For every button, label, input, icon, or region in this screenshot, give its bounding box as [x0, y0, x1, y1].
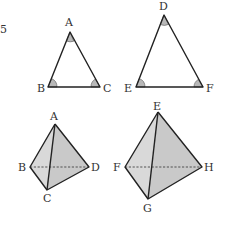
label-f: F [206, 82, 214, 95]
label-h-tetra: H [204, 161, 214, 174]
label-a: A [64, 16, 74, 29]
label-e-tetra: E [153, 100, 161, 113]
geometry-figure: 5 A B C D E F A B C D E F [0, 0, 226, 227]
label-c: C [103, 82, 111, 95]
label-d: D [159, 0, 168, 13]
triangle-abc-outline [48, 32, 100, 87]
label-f-tetra: F [113, 161, 121, 174]
label-b-tetra: B [18, 161, 26, 174]
triangle-def-outline [136, 15, 203, 87]
label-d-tetra: D [91, 161, 100, 174]
label-e: E [124, 82, 132, 95]
triangle-abc: A B C [37, 16, 111, 95]
label-c-tetra: C [43, 192, 51, 205]
label-a-tetra: A [49, 110, 59, 123]
tetrahedron-efgh: E F G H [113, 100, 214, 215]
label-g-tetra: G [143, 202, 152, 215]
label-b: B [37, 82, 45, 95]
corner-mark: 5 [0, 23, 7, 36]
tetrahedron-abcd: A B C D [18, 110, 100, 205]
triangle-def: D E F [124, 0, 214, 95]
